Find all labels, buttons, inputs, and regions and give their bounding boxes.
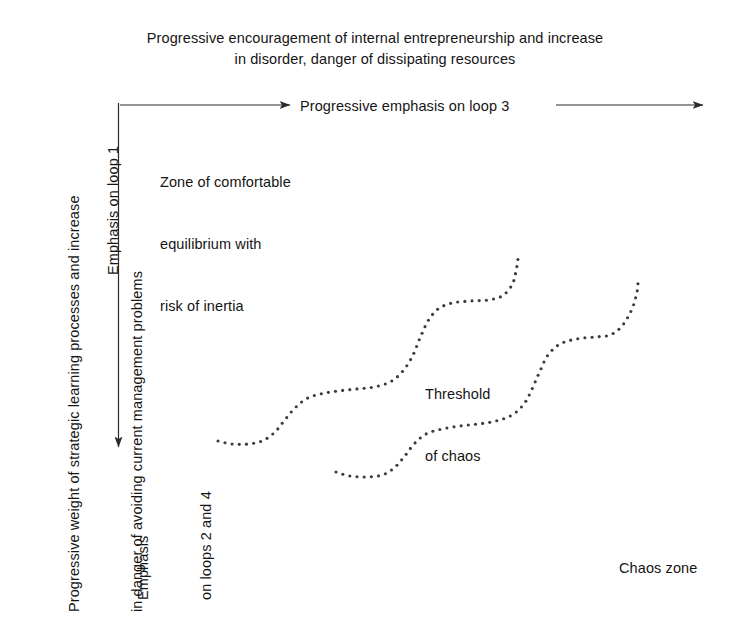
threshold-of-chaos-label: Threshold of chaos xyxy=(425,343,490,508)
zone-label-line-2: equilibrium with xyxy=(160,234,291,255)
top-caption-line-2: in disorder, danger of dissipating resou… xyxy=(0,49,750,70)
vertical-arrow-end-label-line-1: Emphasis xyxy=(133,491,154,600)
vertical-axis-caption-line-1: Progressive weight of strategic learning… xyxy=(64,195,85,612)
threshold-label-line-2: of chaos xyxy=(425,446,490,467)
vertical-arrow-end-label-line-2: on loops 2 and 4 xyxy=(196,491,217,600)
zone-label-line-1: Zone of comfortable xyxy=(160,172,291,193)
vertical-arrow-start-label: Emphasis on loop 1 xyxy=(103,146,124,275)
chaos-zone-label: Chaos zone xyxy=(619,558,697,579)
top-caption-line-1: Progressive encouragement of internal en… xyxy=(0,28,750,49)
horizontal-axis-label: Progressive emphasis on loop 3 xyxy=(300,96,509,117)
vertical-arrow-end-label: Emphasis on loops 2 and 4 xyxy=(91,491,259,600)
top-caption: Progressive encouragement of internal en… xyxy=(0,28,750,69)
zone-of-equilibrium-label: Zone of comfortable equilibrium with ris… xyxy=(160,131,291,357)
zone-label-line-3: risk of inertia xyxy=(160,296,291,317)
diagram-canvas: Progressive encouragement of internal en… xyxy=(0,0,750,639)
threshold-label-line-1: Threshold xyxy=(425,384,490,405)
